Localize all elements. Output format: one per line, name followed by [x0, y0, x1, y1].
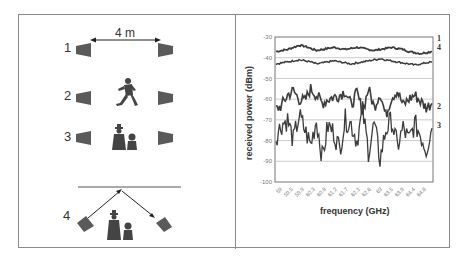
series-label-1: 1	[437, 34, 441, 43]
plot-area	[0, 0, 468, 265]
series-label-2: 2	[437, 102, 441, 111]
series-label-4: 4	[437, 43, 441, 52]
series-label-3: 3	[437, 121, 441, 130]
x-axis-label: frequency (GHz)	[320, 206, 390, 216]
